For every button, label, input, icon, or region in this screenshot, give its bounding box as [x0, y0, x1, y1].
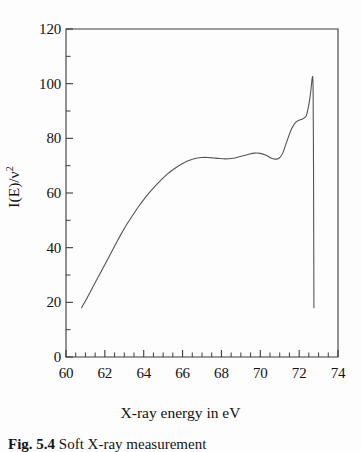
caption-text: Soft X-ray measurement — [55, 436, 206, 452]
x-axis-tick-label: 72 — [279, 366, 319, 381]
axis-frame — [66, 29, 338, 357]
x-axis-tick-label: 62 — [85, 366, 125, 381]
y-axis-tick-label: 100 — [16, 77, 61, 92]
x-axis-tick-label: 60 — [46, 366, 86, 381]
y-axis-tick-label: 120 — [16, 22, 61, 37]
y-axis-title-exponent: 2 — [4, 166, 15, 171]
x-axis-title: X-ray energy in eV — [0, 404, 361, 422]
figure-container: 6062646668707274 020406080100120 X-ray e… — [0, 0, 361, 452]
x-axis-tick-label: 66 — [163, 366, 203, 381]
figure-caption: Fig. 5.4 Soft X-ray measurement — [8, 436, 361, 452]
x-axis-tick-label: 74 — [318, 366, 358, 381]
y-axis-title-main: I(E)/ν — [5, 171, 22, 207]
data-series-line — [82, 77, 314, 308]
y-axis-major-ticks — [66, 29, 73, 357]
x-axis-tick-label: 70 — [240, 366, 280, 381]
x-axis-minor-ticks — [76, 353, 329, 358]
plot-canvas — [0, 0, 361, 452]
y-axis-title: I(E)/ν2 — [5, 127, 23, 247]
x-axis-tick-label: 68 — [201, 366, 241, 381]
caption-label: Fig. 5.4 — [8, 436, 55, 452]
y-axis-tick-label: 20 — [16, 295, 61, 310]
y-axis-tick-label: 0 — [16, 350, 61, 365]
x-axis-tick-label: 64 — [124, 366, 164, 381]
